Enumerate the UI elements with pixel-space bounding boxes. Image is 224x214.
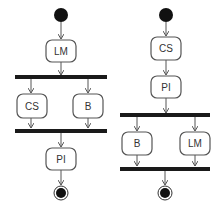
action-node-b: B bbox=[122, 132, 152, 155]
action-node-lm: LM bbox=[46, 40, 76, 62]
action-label: LM bbox=[54, 46, 68, 57]
action-node-b: B bbox=[73, 94, 103, 118]
action-node-pi: PI bbox=[46, 148, 76, 170]
final-node bbox=[54, 186, 68, 200]
join-bar bbox=[120, 167, 210, 171]
left-activity-diagram: LM CS B PI bbox=[15, 8, 107, 200]
action-label: PI bbox=[56, 154, 65, 165]
final-node bbox=[158, 186, 172, 200]
action-node-cs: CS bbox=[17, 94, 47, 118]
action-label: CS bbox=[25, 101, 39, 112]
fork-bar bbox=[120, 113, 210, 117]
right-activity-diagram: CS PI B LM bbox=[120, 8, 210, 200]
initial-node bbox=[159, 8, 173, 22]
action-label: B bbox=[134, 138, 141, 149]
fork-bar bbox=[15, 75, 107, 79]
action-node-lm: LM bbox=[180, 132, 210, 155]
action-label: PI bbox=[161, 82, 170, 93]
initial-node bbox=[54, 8, 68, 22]
action-label: CS bbox=[159, 43, 173, 54]
join-bar bbox=[15, 129, 107, 133]
action-node-cs: CS bbox=[151, 37, 181, 60]
action-label: LM bbox=[188, 138, 202, 149]
activity-diagrams-canvas: LM CS B PI bbox=[0, 0, 224, 214]
action-label: B bbox=[85, 101, 92, 112]
action-node-pi: PI bbox=[151, 76, 181, 98]
